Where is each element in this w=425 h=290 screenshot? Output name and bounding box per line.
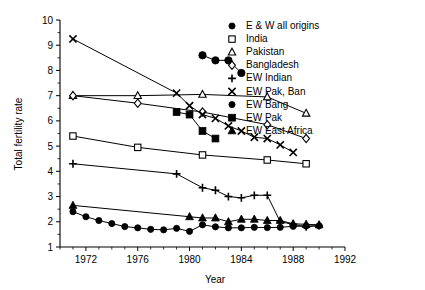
data-point — [225, 225, 231, 231]
legend-item: Pakistan — [228, 46, 284, 57]
data-point — [199, 184, 207, 192]
legend-label: EW Indian — [246, 72, 292, 83]
data-point — [212, 186, 220, 194]
y-tick-label: 5 — [47, 141, 53, 152]
legend-label: EW Pak — [246, 112, 283, 123]
data-point — [250, 191, 258, 199]
chart-container: 12345678910197219761980198419881992 Tota… — [0, 0, 425, 290]
legend-label: E & W all origins — [246, 20, 319, 31]
y-tick-label: 4 — [47, 166, 53, 177]
legend-marker — [229, 36, 235, 42]
data-point — [186, 102, 193, 109]
data-point — [264, 224, 270, 230]
y-tick-label: 7 — [47, 90, 53, 101]
data-point — [238, 127, 245, 134]
data-point — [135, 144, 141, 150]
legend-label: EW East Africa — [246, 125, 313, 136]
x-tick-label: 1980 — [178, 254, 201, 265]
series-ew-indian — [69, 160, 323, 231]
y-tick-label: 6 — [47, 115, 53, 126]
data-point — [199, 222, 205, 228]
data-point — [173, 225, 179, 231]
legend-label: EW Bang — [246, 99, 288, 110]
data-point — [199, 90, 206, 97]
data-point — [238, 69, 245, 76]
data-point — [250, 215, 258, 222]
data-point — [69, 160, 77, 168]
data-point — [264, 157, 270, 163]
legend-label: India — [246, 33, 268, 44]
legend-item: EW Bang — [229, 99, 288, 110]
data-point — [186, 111, 193, 118]
data-point — [173, 109, 180, 116]
x-tick-label: 1988 — [282, 254, 305, 265]
legend-label: Pakistan — [246, 46, 284, 57]
data-point — [186, 228, 192, 234]
legend-item: E & W all origins — [229, 20, 319, 31]
series-polyline — [177, 112, 216, 138]
x-tick-label: 1976 — [127, 254, 150, 265]
legend-label: EW Pak, Ban — [246, 86, 305, 97]
legend-marker — [229, 23, 235, 29]
data-point — [70, 209, 76, 215]
legend-marker — [228, 48, 235, 55]
data-point — [277, 141, 284, 148]
data-point — [237, 215, 245, 222]
x-tick-label: 1972 — [75, 254, 98, 265]
data-point — [238, 225, 244, 231]
data-point — [122, 223, 128, 229]
data-point — [109, 220, 115, 226]
data-point — [69, 201, 77, 208]
legend: E & W all originsIndiaPakistanBangladesh… — [228, 20, 319, 136]
legend-item: EW Pak, Ban — [228, 86, 305, 97]
series-polyline — [203, 55, 242, 73]
y-tick-label: 8 — [47, 65, 53, 76]
legend-marker — [228, 88, 235, 95]
data-point — [237, 194, 245, 202]
data-point — [303, 161, 309, 167]
data-point — [173, 90, 180, 97]
series-india — [70, 133, 310, 167]
data-point — [135, 225, 141, 231]
x-tick-label: 1984 — [230, 254, 253, 265]
data-point — [212, 115, 219, 122]
legend-marker — [229, 114, 236, 121]
data-point — [212, 57, 219, 64]
data-point — [290, 149, 297, 156]
legend-item: EW Pak — [229, 112, 284, 123]
data-point — [69, 35, 76, 42]
data-point — [212, 135, 219, 142]
legend-item: India — [229, 33, 268, 44]
series-ew-east-africa — [69, 201, 323, 228]
data-point — [276, 216, 284, 223]
legend-marker — [229, 102, 235, 108]
y-tick-label: 2 — [47, 216, 53, 227]
data-point — [83, 214, 89, 220]
y-axis-title: Total fertility rate — [13, 97, 24, 170]
series-ew-bang — [199, 52, 245, 77]
data-point — [199, 52, 206, 59]
data-point — [263, 191, 271, 199]
data-point — [134, 99, 141, 107]
data-point — [148, 226, 154, 232]
data-point — [96, 217, 102, 223]
y-tick-label: 10 — [42, 15, 54, 26]
fertility-rate-line-chart: 12345678910197219761980198419881992 Tota… — [0, 0, 425, 290]
data-point — [173, 170, 181, 178]
data-point — [70, 133, 76, 139]
data-point — [225, 193, 233, 201]
legend-label: Bangladesh — [246, 59, 299, 70]
data-point — [199, 152, 205, 158]
data-point — [212, 224, 218, 230]
legend-item: Bangladesh — [229, 59, 299, 70]
data-point — [251, 224, 257, 230]
y-tick-label: 3 — [47, 191, 53, 202]
data-point — [199, 128, 206, 135]
data-point — [134, 92, 141, 99]
data-point — [161, 227, 167, 233]
x-axis-title: Year — [205, 274, 226, 285]
x-tick-label: 1992 — [334, 254, 357, 265]
y-tick-label: 1 — [47, 242, 53, 253]
data-point — [212, 214, 220, 221]
y-tick-label: 9 — [47, 40, 53, 51]
